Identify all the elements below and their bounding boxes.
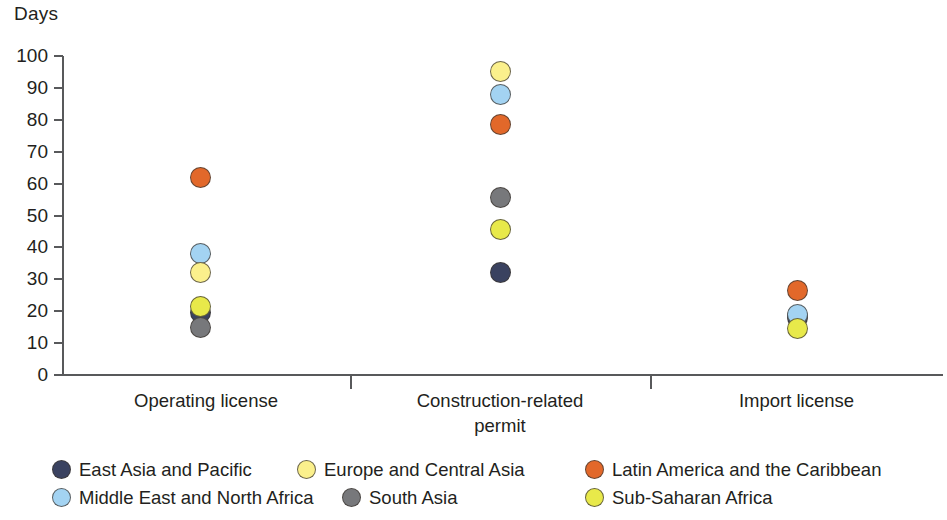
legend-swatch-icon [52, 460, 71, 479]
data-point[interactable] [490, 187, 511, 208]
y-axis-tick-label: 30 [0, 269, 48, 288]
x-axis-category-label-1: Operating license [62, 388, 350, 413]
chart-legend: East Asia and PacificEurope and Central … [52, 455, 947, 517]
data-point[interactable] [787, 280, 808, 301]
legend-item[interactable]: South Asia [342, 483, 457, 511]
legend-item[interactable]: Middle East and North Africa [52, 483, 313, 511]
y-axis-tick-label: 20 [0, 301, 48, 320]
data-point[interactable] [190, 243, 211, 264]
y-axis-tick-label: 0 [0, 365, 48, 384]
plot-area [62, 56, 943, 375]
legend-item[interactable]: East Asia and Pacific [52, 455, 252, 483]
data-point[interactable] [490, 219, 511, 240]
y-axis-tick-label: 90 [0, 78, 48, 97]
data-point[interactable] [490, 61, 511, 82]
legend-label: South Asia [369, 488, 457, 507]
y-axis-unit-label: Days [14, 3, 58, 25]
legend-label: Europe and Central Asia [324, 460, 525, 479]
legend-swatch-icon [297, 460, 316, 479]
data-point[interactable] [190, 296, 211, 317]
y-axis-tick-label: 80 [0, 110, 48, 129]
data-point[interactable] [787, 318, 808, 339]
legend-swatch-icon [342, 488, 361, 507]
legend-item[interactable]: Europe and Central Asia [297, 455, 525, 483]
y-axis-tick-label: 40 [0, 237, 48, 256]
legend-item[interactable]: Sub-Saharan Africa [585, 483, 772, 511]
data-point[interactable] [190, 317, 211, 338]
legend-item[interactable]: Latin America and the Caribbean [585, 455, 881, 483]
data-point[interactable] [490, 262, 511, 283]
legend-label: Latin America and the Caribbean [612, 460, 881, 479]
y-axis-tick-label: 10 [0, 333, 48, 352]
legend-swatch-icon [52, 488, 71, 507]
y-axis-tick-label: 100 [0, 46, 48, 65]
legend-row-1: East Asia and PacificEurope and Central … [52, 455, 947, 483]
data-point[interactable] [490, 114, 511, 135]
y-axis-tick-label: 60 [0, 174, 48, 193]
legend-label: Middle East and North Africa [79, 488, 313, 507]
legend-swatch-icon [585, 488, 604, 507]
legend-label: Sub-Saharan Africa [612, 488, 772, 507]
legend-label: East Asia and Pacific [79, 460, 252, 479]
x-axis-category-label-2: Construction-relatedpermit [350, 388, 650, 438]
data-point[interactable] [190, 167, 211, 188]
y-axis-tick-label: 70 [0, 142, 48, 161]
legend-swatch-icon [585, 460, 604, 479]
legend-row-2: Middle East and North AfricaSouth AsiaSu… [52, 483, 947, 511]
x-axis-category-label-3: Import license [650, 388, 943, 413]
y-axis-tick-label: 50 [0, 206, 48, 225]
data-point[interactable] [490, 84, 511, 105]
data-point[interactable] [190, 262, 211, 283]
dot-plot-chart: Days 1009080706050403020100 Operating li… [0, 0, 947, 520]
